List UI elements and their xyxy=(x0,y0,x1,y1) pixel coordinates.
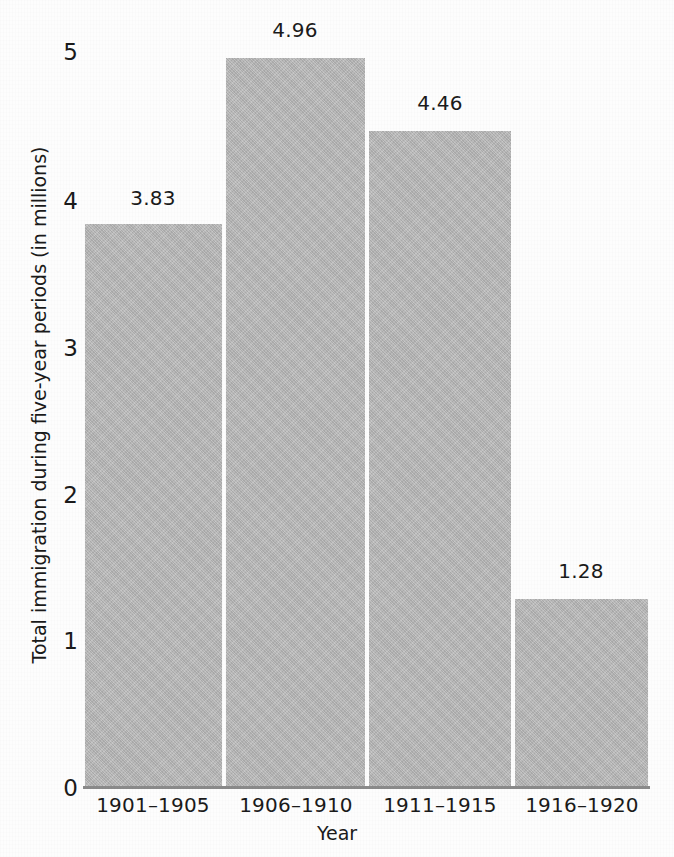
x-tick-label-1916-1920: 1916–1920 xyxy=(525,793,639,817)
y-tick-label-5: 5 xyxy=(38,39,78,65)
bar-1916-1920 xyxy=(515,599,648,787)
immigration-bar-chart: 5 4 3 2 1 0 Total immigration during fiv… xyxy=(0,0,674,857)
y-tick-label-0: 0 xyxy=(38,775,78,801)
bar-1911-1915 xyxy=(369,131,511,787)
bar-1906-1910 xyxy=(226,58,365,787)
x-tick-label-1911-1915: 1911–1915 xyxy=(383,793,497,817)
plot-area: 3.83 4.96 4.46 1.28 xyxy=(85,40,650,787)
x-axis-line xyxy=(83,786,650,789)
bar-value-1916-1920: 1.28 xyxy=(558,559,603,583)
y-axis-title: Total immigration during five-year perio… xyxy=(28,105,50,705)
x-axis-title: Year xyxy=(0,822,674,844)
bar-value-1901-1905: 3.83 xyxy=(130,186,175,210)
x-tick-label-1906-1910: 1906–1910 xyxy=(239,793,353,817)
bar-value-1911-1915: 4.46 xyxy=(417,91,462,115)
bar-value-1906-1910: 4.96 xyxy=(272,18,317,42)
bar-1901-1905 xyxy=(85,224,222,787)
x-tick-label-1901-1905: 1901–1905 xyxy=(96,793,210,817)
